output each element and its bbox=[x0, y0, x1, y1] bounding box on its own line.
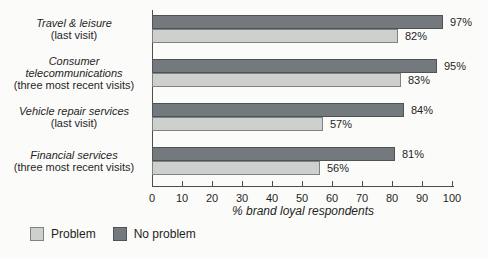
bar-no-problem bbox=[152, 147, 395, 161]
x-axis-tick-label: 50 bbox=[289, 192, 315, 204]
plot-area: Travel & leisure(last visit)97%82%Consum… bbox=[0, 0, 488, 259]
x-axis-tick bbox=[272, 181, 273, 186]
value-label: 57% bbox=[330, 117, 352, 131]
x-axis-tick bbox=[362, 181, 363, 186]
category-note: (three most recent visits) bbox=[0, 79, 148, 91]
x-axis-tick bbox=[302, 181, 303, 186]
category-label: Travel & leisure(last visit) bbox=[0, 17, 148, 41]
category-note: (last visit) bbox=[0, 29, 148, 41]
category-label: Consumer telecommunications(three most r… bbox=[0, 55, 148, 91]
value-label: 56% bbox=[327, 161, 349, 175]
category-name: Consumer telecommunications bbox=[0, 55, 148, 79]
legend-label-no-problem: No problem bbox=[134, 227, 196, 241]
bar-problem bbox=[152, 29, 398, 43]
value-label: 81% bbox=[402, 147, 424, 161]
legend-item-no-problem: No problem bbox=[113, 227, 196, 241]
x-axis-tick-label: 30 bbox=[229, 192, 255, 204]
bar-problem bbox=[152, 73, 401, 87]
value-label: 95% bbox=[444, 59, 466, 73]
bar-problem bbox=[152, 117, 323, 131]
category-name: Financial services bbox=[0, 149, 148, 161]
bar-no-problem bbox=[152, 103, 404, 117]
category-label: Vehicle repair services(last visit) bbox=[0, 105, 148, 129]
x-axis-tick-label: 20 bbox=[199, 192, 225, 204]
value-label: 83% bbox=[408, 73, 430, 87]
bar-problem bbox=[152, 161, 320, 175]
legend-swatch-no-problem bbox=[113, 227, 127, 241]
x-axis-tick bbox=[422, 181, 423, 186]
category-name: Vehicle repair services bbox=[0, 105, 148, 117]
x-axis-tick bbox=[452, 181, 453, 186]
x-axis-tick-label: 0 bbox=[139, 192, 165, 204]
legend: ProblemNo problem bbox=[30, 227, 196, 241]
x-axis-tick-label: 100 bbox=[439, 192, 465, 204]
x-axis-tick bbox=[242, 181, 243, 186]
x-axis-tick bbox=[182, 181, 183, 186]
category-label: Financial services(three most recent vis… bbox=[0, 149, 148, 173]
x-axis-tick-label: 40 bbox=[259, 192, 285, 204]
x-axis-tick bbox=[392, 181, 393, 186]
brand-loyalty-bar-chart: Travel & leisure(last visit)97%82%Consum… bbox=[0, 0, 488, 259]
category-note: (three most recent visits) bbox=[0, 161, 148, 173]
bar-no-problem bbox=[152, 15, 443, 29]
legend-label-problem: Problem bbox=[51, 227, 96, 241]
x-axis-tick-label: 10 bbox=[169, 192, 195, 204]
bar-no-problem bbox=[152, 59, 437, 73]
x-axis-line bbox=[152, 186, 454, 187]
category-name: Travel & leisure bbox=[0, 17, 148, 29]
value-label: 82% bbox=[405, 29, 427, 43]
x-axis-tick bbox=[332, 181, 333, 186]
legend-item-problem: Problem bbox=[30, 227, 96, 241]
x-axis-tick-label: 80 bbox=[379, 192, 405, 204]
value-label: 84% bbox=[411, 103, 433, 117]
legend-swatch-problem bbox=[30, 227, 44, 241]
category-note: (last visit) bbox=[0, 117, 148, 129]
x-axis-tick-label: 90 bbox=[409, 192, 435, 204]
x-axis-tick bbox=[212, 181, 213, 186]
x-axis-title: % brand loyal respondents bbox=[152, 204, 454, 218]
x-axis-tick-label: 70 bbox=[349, 192, 375, 204]
value-label: 97% bbox=[450, 15, 472, 29]
x-axis-tick-label: 60 bbox=[319, 192, 345, 204]
